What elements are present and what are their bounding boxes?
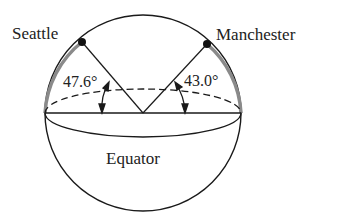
angle-left-label: 47.6° [63, 73, 97, 90]
globe-diagram: Seattle Manchester 47.6° 43.0° Equator [0, 0, 346, 212]
equator-label: Equator [106, 149, 160, 168]
seattle-dot [78, 38, 86, 46]
manchester-label: Manchester [216, 25, 296, 44]
seattle-label: Seattle [12, 24, 58, 43]
manchester-dot [203, 40, 211, 48]
angle-arrow-left [99, 82, 109, 113]
equator-front [45, 113, 241, 137]
equator-back [45, 89, 241, 113]
angle-right-label: 43.0° [184, 72, 218, 89]
